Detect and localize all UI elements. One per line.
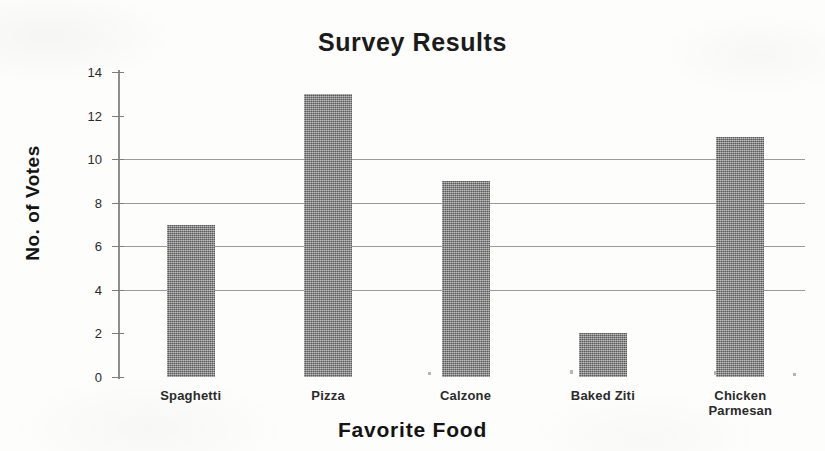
x-axis-category-label-line: Parmesan	[670, 403, 810, 418]
chart-page: Survey Results No. of Votes 02468101214 …	[0, 0, 825, 451]
x-axis-title: Favorite Food	[0, 418, 825, 442]
bar	[167, 225, 215, 378]
x-axis-category-label: Baked Ziti	[533, 388, 673, 403]
y-axis-tick-label: 12	[62, 108, 102, 123]
x-axis-category-label-line: Chicken	[670, 388, 810, 403]
x-axis-category-label-line: Calzone	[396, 388, 536, 403]
gridline	[118, 159, 805, 160]
scan-speck	[570, 370, 573, 374]
y-axis-tick	[112, 116, 124, 117]
y-axis-tick-label: 2	[62, 326, 102, 341]
scan-speck	[714, 371, 716, 375]
bar	[716, 137, 764, 377]
bar	[304, 94, 352, 377]
x-axis-category-label: Calzone	[396, 388, 536, 403]
y-axis-tick	[112, 377, 124, 378]
y-axis-tick	[112, 72, 124, 73]
y-axis-title: No. of Votes	[22, 108, 44, 298]
chart-title: Survey Results	[0, 28, 825, 57]
y-axis-tick-label: 8	[62, 195, 102, 210]
y-axis-tick	[112, 203, 124, 204]
y-axis-tick-label: 0	[62, 370, 102, 385]
x-axis-category-label-line: Spaghetti	[121, 388, 261, 403]
y-axis-tick-label: 14	[62, 65, 102, 80]
y-axis-tick	[112, 290, 124, 291]
scan-speck	[793, 373, 796, 376]
plot-area	[118, 72, 805, 377]
x-axis-category-label-line: Pizza	[258, 388, 398, 403]
y-axis-tick-label: 4	[62, 282, 102, 297]
x-axis-category-label: Spaghetti	[121, 388, 261, 403]
bar	[579, 333, 627, 377]
y-axis-tick-label: 10	[62, 152, 102, 167]
y-axis-tick	[112, 246, 124, 247]
x-axis-category-label: ChickenParmesan	[670, 388, 810, 418]
y-axis-tick	[112, 333, 124, 334]
x-axis-category-label: Pizza	[258, 388, 398, 403]
bar	[442, 181, 490, 377]
x-axis-category-label-line: Baked Ziti	[533, 388, 673, 403]
y-axis-tick	[112, 159, 124, 160]
scan-speck	[428, 372, 431, 375]
y-axis-tick-label: 6	[62, 239, 102, 254]
